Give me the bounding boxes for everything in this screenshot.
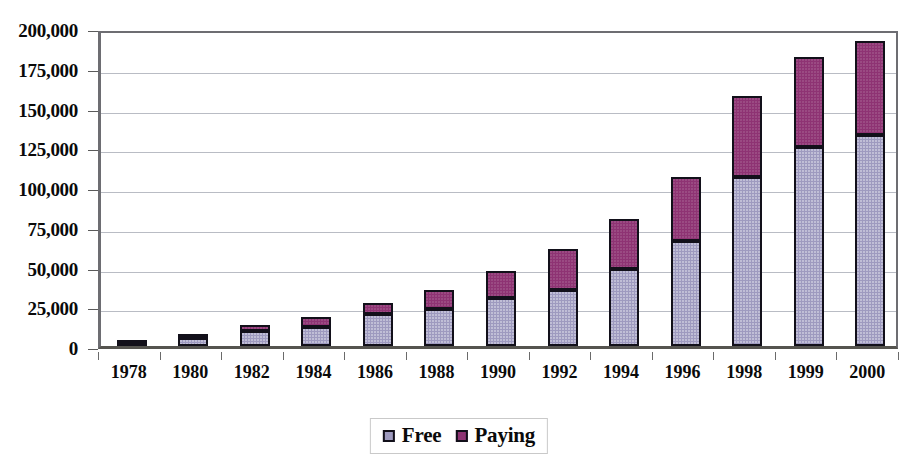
bar-group[interactable]: [363, 303, 393, 346]
x-axis-tick-mark: [529, 352, 530, 360]
y-axis-tick-mark: [88, 270, 98, 271]
bar-group[interactable]: [548, 249, 578, 346]
bar-group[interactable]: [732, 96, 762, 346]
bar-segment-free[interactable]: [855, 135, 885, 346]
bar-group[interactable]: [794, 57, 824, 346]
y-axis-tick-label: 150,000: [18, 100, 78, 122]
chart-legend: FreePaying: [370, 418, 548, 454]
legend-swatch-icon: [383, 430, 395, 442]
y-axis-tick-label: 125,000: [18, 139, 78, 161]
legend-item-label: Free: [402, 425, 442, 446]
x-axis-tick-label: 1990: [480, 362, 516, 383]
y-axis-tick-mark: [88, 230, 98, 231]
legend-swatch-icon: [455, 430, 467, 442]
bar-group[interactable]: [117, 344, 147, 346]
legend-item[interactable]: Free: [383, 425, 442, 446]
bar-group[interactable]: [855, 41, 885, 346]
x-axis-tick-mark: [160, 352, 161, 360]
x-axis-tick-mark: [221, 352, 222, 360]
x-axis-tick-mark: [283, 352, 284, 360]
bar-segment-paying[interactable]: [117, 340, 147, 344]
y-axis-tick-label: 0: [69, 338, 78, 360]
bar-segment-free[interactable]: [178, 338, 208, 346]
bar-segment-free[interactable]: [240, 331, 270, 346]
x-axis-tick-label: 1992: [542, 362, 578, 383]
y-axis-tick-mark: [88, 31, 98, 32]
x-axis-tick-mark: [344, 352, 345, 360]
x-axis-tick-label: 1984: [295, 362, 331, 383]
bar-segment-free[interactable]: [671, 241, 701, 346]
x-axis-tick-mark: [775, 352, 776, 360]
stacked-bar-chart: 025,00050,00075,000100,000125,000150,000…: [0, 0, 918, 474]
y-axis-tick-mark: [88, 111, 98, 112]
y-axis-tick-label: 75,000: [28, 219, 78, 241]
bar-segment-paying[interactable]: [548, 249, 578, 290]
bar-segment-paying[interactable]: [301, 317, 331, 327]
bar-group[interactable]: [424, 290, 454, 346]
x-axis-tick-mark: [98, 352, 99, 360]
y-axis-tick-mark: [88, 190, 98, 191]
y-axis-tick-label: 200,000: [18, 20, 78, 42]
x-axis-tick-label: 1994: [603, 362, 639, 383]
bar-segment-paying[interactable]: [486, 271, 516, 298]
x-axis-tick-mark: [467, 352, 468, 360]
bar-segment-paying[interactable]: [732, 96, 762, 177]
y-axis-tick-label: 100,000: [18, 179, 78, 201]
bar-group[interactable]: [240, 325, 270, 346]
y-axis: 025,00050,00075,000100,000125,000150,000…: [0, 0, 88, 474]
x-axis-tick-label: 1986: [357, 362, 393, 383]
bar-segment-free[interactable]: [301, 327, 331, 346]
bar-segment-free[interactable]: [486, 298, 516, 346]
x-axis-tick-label: 1999: [788, 362, 824, 383]
bar-segment-paying[interactable]: [609, 219, 639, 269]
y-axis-tick-label: 175,000: [18, 60, 78, 82]
x-axis-tick-label: 1988: [418, 362, 454, 383]
bar-segment-free[interactable]: [609, 269, 639, 346]
x-axis-tick-mark: [590, 352, 591, 360]
x-axis-tick-mark: [652, 352, 653, 360]
bar-segment-free[interactable]: [363, 314, 393, 346]
bar-group[interactable]: [609, 219, 639, 346]
x-axis-tick-label: 1996: [665, 362, 701, 383]
x-axis: 1978198019821984198619881990199219941996…: [98, 352, 898, 386]
x-axis-tick-mark: [713, 352, 714, 360]
bar-segment-free[interactable]: [732, 177, 762, 346]
plot-area: [98, 31, 898, 349]
x-axis-tick-label: 1978: [111, 362, 147, 383]
y-axis-tick-mark: [88, 71, 98, 72]
bars-layer: [101, 33, 896, 346]
x-axis-tick-label: 1982: [234, 362, 270, 383]
bar-group[interactable]: [671, 177, 701, 346]
bar-segment-free[interactable]: [424, 309, 454, 346]
y-axis-tick-label: 25,000: [28, 298, 78, 320]
bar-group[interactable]: [301, 317, 331, 346]
x-axis-tick-mark: [836, 352, 837, 360]
bar-segment-free[interactable]: [794, 147, 824, 346]
x-axis-tick-label: 2000: [849, 362, 885, 383]
x-axis-tick-mark: [898, 352, 899, 360]
bar-group[interactable]: [486, 271, 516, 346]
y-axis-tick-mark: [88, 349, 98, 350]
legend-item[interactable]: Paying: [455, 425, 535, 446]
x-axis-tick-mark: [406, 352, 407, 360]
y-axis-tick-mark: [88, 309, 98, 310]
bar-segment-paying[interactable]: [178, 334, 208, 338]
bar-segment-paying[interactable]: [424, 290, 454, 309]
bar-segment-paying[interactable]: [363, 303, 393, 314]
x-axis-tick-label: 1980: [172, 362, 208, 383]
legend-item-label: Paying: [474, 425, 535, 446]
bar-segment-paying[interactable]: [794, 57, 824, 148]
bar-segment-paying[interactable]: [240, 325, 270, 331]
bar-group[interactable]: [178, 335, 208, 346]
y-axis-tick-mark: [88, 150, 98, 151]
x-axis-tick-label: 1998: [726, 362, 762, 383]
bar-segment-paying[interactable]: [671, 177, 701, 241]
bar-segment-free[interactable]: [548, 290, 578, 346]
y-axis-tick-label: 50,000: [28, 259, 78, 281]
bar-segment-paying[interactable]: [855, 41, 885, 135]
